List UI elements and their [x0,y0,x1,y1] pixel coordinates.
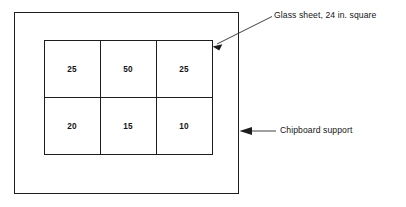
chipboard-support-arrow-icon [240,127,253,135]
glass-sheet-callout-label: Glass sheet, 24 in. square [274,10,377,20]
grid-cell-value: 50 [123,65,133,74]
grid-cell-value: 10 [179,122,189,131]
glass-sheet-leader-line [217,17,272,45]
grid-cell-value: 25 [179,65,189,74]
chipboard-support-callout-label: Chipboard support [280,125,353,135]
chipboard-support-rect [15,13,239,194]
grid-cell-value: 20 [67,122,77,131]
technical-diagram: 25 50 25 20 15 10 Glass sheet, 24 in. sq… [0,0,406,207]
grid-cell-value: 15 [123,122,133,131]
glass-sheet-arrow-icon [213,44,223,50]
diagram-canvas: 25 50 25 20 15 10 Glass sheet, 24 in. sq… [0,0,406,207]
grid-cell-value: 25 [67,65,77,74]
